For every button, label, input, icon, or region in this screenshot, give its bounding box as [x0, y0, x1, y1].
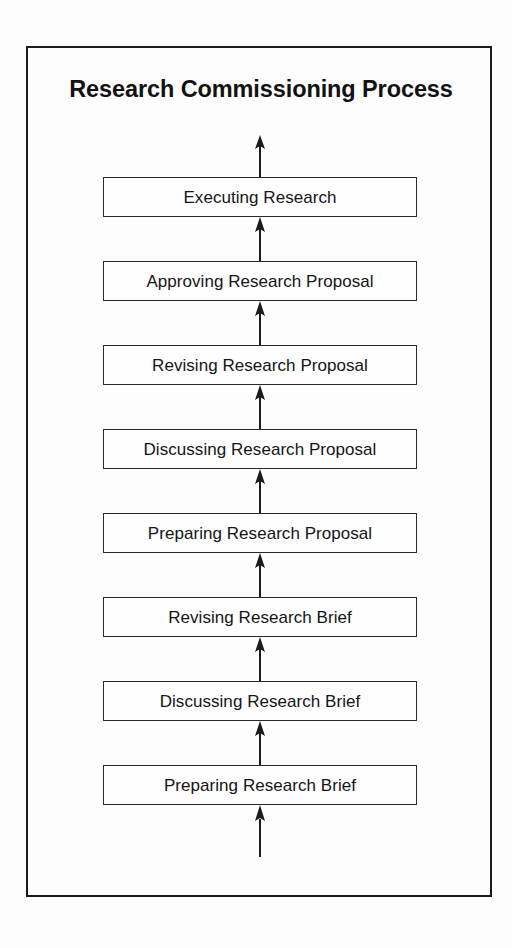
figure-canvas: Research Commissioning Process Executing… [0, 0, 512, 948]
flow-step-approving-research-proposal[interactable]: Approving Research Proposal [103, 261, 417, 301]
connector-arrow-icon [254, 637, 266, 681]
flow-step-preparing-research-proposal[interactable]: Preparing Research Proposal [103, 513, 417, 553]
flow-step-label: Revising Research Brief [168, 609, 352, 626]
entry-arrow-icon [254, 805, 266, 857]
flow-step-executing-research[interactable]: Executing Research [103, 177, 417, 217]
connector-arrow-icon [254, 469, 266, 513]
flow-step-revising-research-brief[interactable]: Revising Research Brief [103, 597, 417, 637]
connector-arrow-icon [254, 721, 266, 765]
connector-arrow-icon [254, 385, 266, 429]
flow-step-preparing-research-brief[interactable]: Preparing Research Brief [103, 765, 417, 805]
flow-step-label: Revising Research Proposal [152, 357, 368, 374]
figure-frame: Research Commissioning Process Executing… [26, 46, 492, 897]
flow-step-discussing-research-proposal[interactable]: Discussing Research Proposal [103, 429, 417, 469]
flowchart: Executing Research Approving Research Pr… [28, 48, 494, 899]
connector-arrow-icon [254, 301, 266, 345]
flow-step-label: Preparing Research Proposal [148, 525, 372, 542]
flow-step-discussing-research-brief[interactable]: Discussing Research Brief [103, 681, 417, 721]
exit-arrow-icon [254, 135, 266, 177]
flow-step-revising-research-proposal[interactable]: Revising Research Proposal [103, 345, 417, 385]
connector-arrow-icon [254, 553, 266, 597]
flow-step-label: Executing Research [183, 189, 336, 206]
flow-step-label: Approving Research Proposal [146, 273, 373, 290]
connector-arrow-icon [254, 217, 266, 261]
flow-step-label: Discussing Research Proposal [144, 441, 377, 458]
flow-step-label: Discussing Research Brief [160, 693, 361, 710]
flow-step-label: Preparing Research Brief [164, 777, 356, 794]
